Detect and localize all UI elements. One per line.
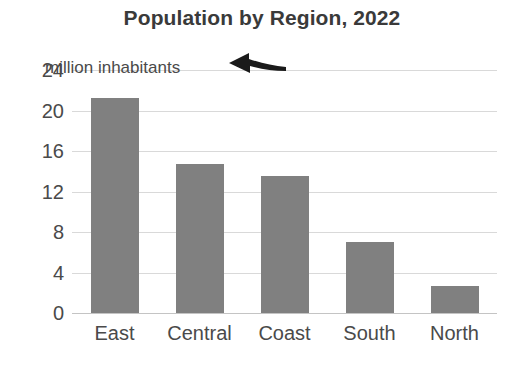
- x-tick-label-north: North: [412, 322, 497, 345]
- x-tick-label-coast: Coast: [242, 322, 327, 345]
- x-tick-label-central: Central: [157, 322, 242, 345]
- chart-title: Population by Region, 2022: [0, 6, 524, 30]
- bar-south[interactable]: [346, 242, 394, 313]
- y-tick-label-16: 16: [4, 141, 64, 161]
- y-tick-label-0: 0: [4, 303, 64, 323]
- bar-central[interactable]: [176, 164, 224, 313]
- y-tick-label-8: 8: [4, 222, 64, 242]
- gridline-0: [72, 313, 497, 314]
- bar-chart: Population by Region, 2022 04812162024 m…: [0, 0, 524, 370]
- bar-north[interactable]: [431, 286, 479, 313]
- y-tick-label-4: 4: [4, 263, 64, 283]
- x-tick-label-east: East: [72, 322, 157, 345]
- bars-layer: [72, 70, 497, 313]
- y-tick-label-12: 12: [4, 182, 64, 202]
- x-axis-tick-labels: EastCentralCoastSouthNorth: [72, 322, 497, 352]
- bar-coast[interactable]: [261, 176, 309, 313]
- y-tick-label-20: 20: [4, 101, 64, 121]
- x-tick-label-south: South: [327, 322, 412, 345]
- bar-east[interactable]: [91, 98, 139, 313]
- y-axis-tick-labels: 04812162024: [0, 70, 64, 313]
